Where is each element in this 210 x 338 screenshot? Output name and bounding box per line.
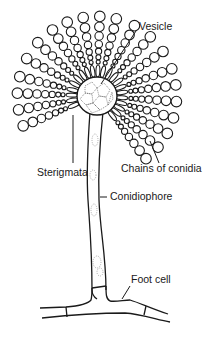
conidium	[35, 77, 43, 85]
conidium	[13, 105, 24, 116]
conidium	[52, 110, 58, 116]
conidium	[104, 56, 109, 61]
conidium	[95, 11, 106, 22]
conidium	[107, 34, 115, 42]
conidium	[78, 12, 89, 23]
conidium	[103, 61, 107, 65]
label-vesicle: Vesicle	[139, 20, 172, 32]
conidium	[57, 84, 62, 89]
conidium	[95, 32, 103, 40]
conidium	[42, 101, 49, 108]
conidium	[133, 88, 138, 93]
conidium	[62, 86, 66, 90]
conidium	[145, 96, 152, 103]
conidium	[139, 117, 146, 124]
conidium	[60, 75, 65, 80]
conidium	[56, 92, 61, 97]
conidium	[161, 96, 171, 106]
conidium	[133, 96, 138, 101]
conidium	[37, 114, 45, 122]
conidium	[167, 64, 178, 75]
conidium	[48, 68, 55, 75]
conidium	[142, 75, 149, 82]
conidium	[82, 33, 90, 41]
conidium	[33, 37, 44, 48]
stalk-cytoplasm	[90, 134, 103, 276]
conidium	[23, 89, 33, 99]
conidium	[12, 88, 23, 99]
sterigma	[96, 65, 100, 77]
conidium	[96, 60, 100, 64]
conidium	[59, 108, 64, 113]
conidium	[64, 107, 68, 111]
conidium	[136, 78, 142, 84]
conidium	[62, 17, 73, 28]
conidium	[145, 85, 152, 92]
conidium	[159, 110, 169, 120]
conidium	[28, 117, 38, 127]
conidium	[96, 48, 102, 54]
conidium	[158, 46, 169, 57]
conidium	[132, 104, 137, 109]
conidium	[89, 61, 93, 65]
conidium	[80, 58, 85, 63]
conidium	[47, 25, 58, 36]
conidium	[171, 96, 182, 107]
conidium	[18, 121, 29, 132]
conidium	[153, 124, 163, 134]
conidium	[138, 87, 144, 93]
conidium	[153, 96, 161, 104]
conidium	[50, 82, 56, 88]
conidium	[56, 100, 61, 105]
conidium	[106, 42, 113, 49]
conidium	[95, 41, 102, 48]
conidium	[62, 100, 66, 104]
conidium	[74, 44, 81, 51]
conidium	[25, 74, 35, 84]
conidium	[128, 103, 132, 107]
conidium	[45, 112, 52, 119]
conidium	[131, 80, 136, 85]
conidium	[33, 90, 41, 98]
conidium	[152, 83, 160, 91]
vesicle	[77, 77, 117, 115]
conidium	[162, 128, 173, 139]
conidium	[21, 53, 32, 64]
conidium	[43, 80, 50, 87]
label-chains-of-conidia: Chains of conidia	[121, 162, 202, 174]
conidium	[111, 13, 122, 24]
aspergillus-diagram: Vesicle Sterigmata Chains of conidia Con…	[0, 0, 210, 338]
conidium	[14, 71, 25, 82]
conidium	[82, 63, 86, 67]
conidium	[95, 22, 105, 32]
conidium	[24, 103, 34, 113]
conidium	[34, 102, 42, 110]
conidium	[139, 96, 145, 102]
conidium	[61, 93, 65, 97]
conidium	[143, 107, 150, 114]
conidium	[161, 82, 171, 92]
foot-cell-hypha	[40, 286, 170, 322]
conidium	[168, 113, 179, 124]
conidium	[151, 108, 159, 116]
conidium	[171, 80, 182, 91]
conidium	[88, 55, 93, 60]
sterigma	[66, 93, 78, 97]
conidium	[31, 59, 41, 69]
conidium	[105, 49, 111, 55]
conidium	[129, 89, 133, 93]
conidium	[80, 23, 90, 33]
foot-cell-leader	[122, 286, 130, 299]
conidium	[127, 82, 131, 86]
conidium	[109, 24, 119, 34]
label-foot-cell: Foot cell	[131, 273, 171, 285]
conidium	[149, 71, 157, 79]
conidium	[96, 55, 101, 60]
conidium	[50, 101, 56, 107]
conidium	[84, 41, 91, 48]
conidium	[157, 68, 167, 78]
conidium	[77, 51, 83, 57]
conidium	[129, 112, 134, 117]
conidium	[66, 27, 76, 37]
conidium	[42, 91, 49, 98]
